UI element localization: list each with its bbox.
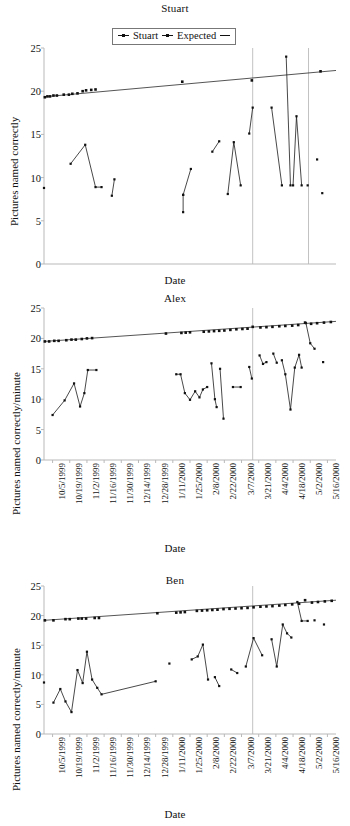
data-point xyxy=(241,328,244,331)
data-point xyxy=(316,322,319,325)
y-tick-label: 20 xyxy=(31,86,42,97)
data-point xyxy=(290,636,292,638)
data-point xyxy=(53,340,56,343)
x-tick-label: 12/28/1999 xyxy=(160,463,170,504)
series-segment xyxy=(273,354,276,363)
x-tick-label: 12/14/1999 xyxy=(142,737,152,778)
data-point xyxy=(270,638,272,640)
data-point xyxy=(94,88,97,91)
data-point xyxy=(292,184,294,186)
data-point xyxy=(235,328,238,331)
data-point xyxy=(246,327,249,330)
data-point xyxy=(70,338,73,341)
data-point xyxy=(100,186,102,188)
data-point xyxy=(49,95,52,98)
data-point xyxy=(44,340,47,343)
data-point xyxy=(181,80,184,83)
data-point xyxy=(311,601,314,604)
series-expected xyxy=(44,70,336,99)
plot-area-stuart: 0510152025 xyxy=(44,48,336,264)
data-point xyxy=(96,687,98,689)
series-segment xyxy=(306,323,315,349)
data-point xyxy=(285,56,287,58)
x-tick-label: 5/2/2000 xyxy=(314,463,324,495)
data-point xyxy=(222,418,224,420)
data-point xyxy=(70,711,72,713)
series-stuart xyxy=(43,56,323,214)
y-tick-label: 5 xyxy=(36,215,41,226)
y-tick-label: 25 xyxy=(31,581,42,592)
data-point xyxy=(113,178,115,180)
data-point xyxy=(319,70,322,73)
data-point xyxy=(291,603,294,606)
series-segment xyxy=(286,57,290,186)
data-point xyxy=(297,324,300,327)
data-point xyxy=(48,340,51,343)
data-point xyxy=(90,89,93,92)
data-point xyxy=(259,605,262,608)
data-point xyxy=(85,617,88,620)
data-point xyxy=(184,392,186,394)
data-point xyxy=(43,187,45,189)
y-tick-label: 10 xyxy=(31,172,42,183)
y-tick-label: 5 xyxy=(36,699,41,710)
chart-panel-alex: Alex Pictures named correctly/minute 051… xyxy=(0,290,350,560)
x-tick-label: 4/4/2000 xyxy=(280,463,290,495)
y-tick-label: 25 xyxy=(31,303,42,314)
data-point xyxy=(265,361,267,363)
data-point xyxy=(310,323,313,326)
data-point xyxy=(281,359,283,361)
data-point xyxy=(68,93,71,96)
series-expected xyxy=(44,599,336,622)
data-point xyxy=(234,607,237,610)
series-expected xyxy=(44,321,336,343)
data-point xyxy=(43,681,45,683)
data-point xyxy=(218,330,221,333)
data-point xyxy=(210,362,212,364)
data-point xyxy=(91,337,94,340)
x-axis-label-ben: Date xyxy=(0,808,350,820)
data-point xyxy=(286,632,288,634)
data-point xyxy=(322,361,324,363)
series-segment xyxy=(220,369,223,419)
data-point xyxy=(305,322,307,324)
data-point xyxy=(51,414,53,416)
y-axis-label-text: Pictures named correctly/minute xyxy=(10,325,22,515)
data-point xyxy=(222,608,225,611)
data-point xyxy=(262,363,264,365)
legend-label-expected: Expected xyxy=(177,30,216,42)
data-point xyxy=(301,184,303,186)
y-tick-label: 15 xyxy=(31,129,42,140)
data-point xyxy=(86,651,88,653)
data-point xyxy=(179,611,182,614)
data-point xyxy=(86,337,89,340)
data-point xyxy=(76,92,79,95)
data-point xyxy=(201,609,204,612)
x-tick-label: 2/22/2000 xyxy=(228,463,238,500)
series-segment xyxy=(215,677,219,686)
data-point xyxy=(278,325,281,328)
data-point xyxy=(252,107,254,109)
data-point xyxy=(301,366,303,368)
x-tick-label: 12/14/1999 xyxy=(142,463,152,504)
data-point xyxy=(281,184,283,186)
data-point xyxy=(213,330,216,333)
data-point xyxy=(93,617,96,620)
data-point xyxy=(271,326,274,329)
data-point xyxy=(284,604,287,607)
x-tick-label: 10/19/1999 xyxy=(74,463,84,504)
data-point xyxy=(73,382,75,384)
data-point xyxy=(189,331,192,334)
data-point xyxy=(258,354,260,356)
data-point xyxy=(211,151,213,153)
data-point xyxy=(313,619,315,621)
x-tick-label: 5/16/2000 xyxy=(331,463,341,500)
data-point xyxy=(301,620,303,622)
data-point xyxy=(216,608,219,611)
x-tick-label: 10/5/1999 xyxy=(57,463,67,500)
data-point xyxy=(175,373,177,375)
y-tick-label: 20 xyxy=(31,333,42,344)
data-point xyxy=(218,685,220,687)
data-point xyxy=(229,329,232,332)
data-point xyxy=(194,390,196,392)
